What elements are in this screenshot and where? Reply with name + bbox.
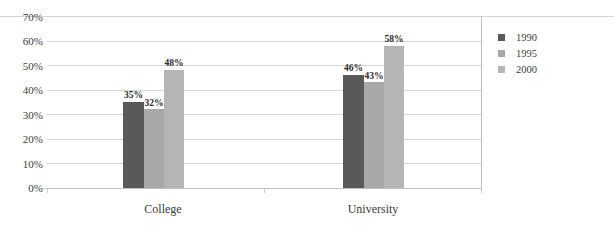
bar-university-1995 [364, 82, 384, 188]
legend-swatch-icon-2000 [498, 66, 505, 73]
y-axis-label-0: 0% [3, 183, 43, 194]
legend-item-1995[interactable]: 1995 [498, 47, 537, 60]
chart-legend: 1990 1995 2000 [498, 31, 537, 79]
legend-label-1990: 1990 [516, 32, 537, 43]
plot-area: 35% 32% 48% 46% 43% 58% [47, 16, 481, 188]
legend-swatch-icon-1995 [498, 50, 505, 57]
value-label-university-2000: 58% [381, 34, 407, 44]
y-axis-label-30: 30% [3, 110, 43, 121]
bar-college-1990 [123, 102, 144, 188]
bar-college-2000 [164, 70, 184, 188]
legend-item-2000[interactable]: 2000 [498, 63, 537, 76]
bar-university-1990 [343, 75, 364, 188]
x-axis-tick-left [47, 189, 48, 193]
y-axis-label-20: 20% [3, 134, 43, 145]
bar-chart: 70% 60% 50% 40% 30% 20% 10% 0% 35% 32% 4… [0, 0, 616, 233]
bar-university-2000 [384, 46, 404, 189]
gridline-20 [47, 139, 481, 140]
y-axis-label-10: 10% [3, 159, 43, 170]
gridline-10 [47, 163, 481, 164]
value-label-college-2000: 48% [161, 58, 187, 68]
y-axis-label-50: 50% [3, 61, 43, 72]
value-label-college-1995: 32% [141, 98, 167, 108]
legend-label-1995: 1995 [516, 48, 537, 59]
legend-swatch-icon-1990 [498, 34, 505, 41]
x-axis-tick-right [481, 189, 482, 193]
gridline-70 [47, 16, 481, 17]
y-axis-label-40: 40% [3, 85, 43, 96]
bar-group-college: 35% 32% 48% [123, 16, 184, 188]
legend-item-1990[interactable]: 1990 [498, 31, 537, 44]
bar-college-1995 [144, 109, 164, 188]
y-axis-label-70: 70% [3, 12, 43, 23]
gridline-60 [47, 41, 481, 42]
x-axis-tick-mid [264, 189, 265, 193]
y-axis-label-60: 60% [3, 36, 43, 47]
gridline-40 [47, 90, 481, 91]
gridline-50 [47, 65, 481, 66]
value-label-university-1995: 43% [361, 71, 387, 81]
x-axis-category-university: University [323, 203, 423, 216]
legend-divider [481, 16, 482, 189]
gridline-30 [47, 114, 481, 115]
x-axis-category-college: College [113, 203, 213, 216]
legend-label-2000: 2000 [516, 64, 537, 75]
bar-group-university: 46% 43% 58% [343, 16, 404, 188]
